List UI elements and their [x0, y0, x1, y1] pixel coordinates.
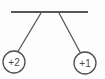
diagram-canvas: +2 +1 — [0, 0, 105, 79]
left-charge-label: +2 — [8, 57, 20, 68]
physics-diagram-figure: +2 +1 — [0, 0, 105, 79]
right-charge-label: +1 — [79, 58, 91, 69]
right-suspension-string — [59, 13, 81, 54]
left-suspension-string — [17, 13, 41, 53]
